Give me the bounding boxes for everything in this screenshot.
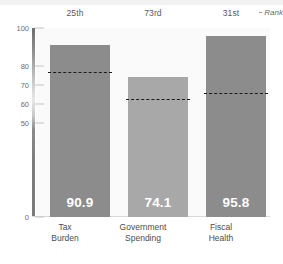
rank-label-government-spending: 73rd — [114, 8, 192, 18]
y-tick-label-100: 100 — [16, 24, 29, 33]
y-tick-mark-0 — [35, 217, 44, 218]
reference-line-tax-burden — [48, 72, 112, 73]
category-label-government-spending-line2: Spending — [98, 233, 188, 244]
reference-line-government-spending — [126, 99, 190, 100]
y-tick-label-80: 80 — [21, 61, 29, 70]
y-tick-label-0: 0 — [25, 213, 29, 222]
y-tick-mark-80 — [35, 65, 44, 66]
y-tick-mark-50 — [35, 122, 44, 123]
category-label-tax-burden-line1: Tax — [20, 222, 110, 233]
rank-axis-annotation: Rank — [259, 8, 283, 17]
y-tick-mark-100 — [35, 28, 44, 29]
rank-annotation-tick-icon — [259, 12, 262, 13]
category-label-row: Tax Burden Government Spending Fiscal He… — [0, 222, 283, 254]
category-label-tax-burden-line2: Burden — [20, 233, 110, 244]
y-tick-label-50: 50 — [21, 118, 29, 127]
bar-fiscal-health[interactable]: 95.8 — [206, 36, 266, 217]
bar-value-government-spending: 74.1 — [128, 195, 188, 210]
category-label-fiscal-health: Fiscal Health — [176, 222, 266, 243]
bar-chart: 25th 73rd 31st Rank 100 80 70 60 50 0 90… — [0, 0, 283, 264]
rank-annotation-label: Rank — [264, 8, 283, 17]
category-label-fiscal-health-line2: Health — [176, 233, 266, 244]
y-tick-mark-60 — [35, 103, 44, 104]
reference-line-fiscal-health — [204, 93, 268, 94]
category-label-fiscal-health-line1: Fiscal — [176, 222, 266, 233]
bar-value-fiscal-health: 95.8 — [206, 195, 266, 210]
rank-label-tax-burden: 25th — [36, 8, 114, 18]
y-tick-label-60: 60 — [21, 99, 29, 108]
y-tick-mark-70 — [35, 84, 44, 85]
y-tick-label-70: 70 — [21, 80, 29, 89]
rank-row: 25th 73rd 31st Rank — [0, 8, 283, 24]
plot-area: 100 80 70 60 50 0 90.9 74.1 95.8 — [36, 28, 270, 217]
category-label-government-spending-line1: Government — [98, 222, 188, 233]
category-label-government-spending: Government Spending — [98, 222, 188, 243]
rank-label-fiscal-health: 31st — [192, 8, 270, 18]
top-divider-band — [0, 0, 283, 5]
category-label-tax-burden: Tax Burden — [20, 222, 110, 243]
bar-value-tax-burden: 90.9 — [50, 195, 110, 210]
